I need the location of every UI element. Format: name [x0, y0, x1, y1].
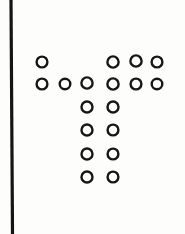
circle-marker — [108, 102, 119, 113]
circle-marker — [131, 79, 142, 90]
circle-marker — [37, 79, 48, 90]
circle-marker — [108, 172, 119, 183]
circle-marker — [60, 79, 71, 90]
circle-marker — [130, 55, 141, 66]
circle-marker — [82, 149, 93, 160]
circle-marker — [82, 102, 93, 113]
figure-canvas — [0, 0, 185, 234]
circle-marker — [82, 172, 93, 183]
circle-marker — [152, 57, 163, 68]
circle-marker — [107, 78, 118, 89]
circle-marker — [107, 56, 118, 67]
circle-marker — [37, 57, 48, 68]
vertical-rule — [11, 0, 13, 234]
circle-marker — [81, 77, 92, 88]
circle-marker — [152, 79, 163, 90]
vertical-rule-line — [11, 0, 13, 234]
circle-marker — [82, 125, 93, 136]
dot-pattern-svg — [0, 0, 185, 234]
circle-marker — [108, 149, 119, 160]
circle-marker — [108, 125, 119, 136]
circle-marker-group — [37, 55, 163, 182]
